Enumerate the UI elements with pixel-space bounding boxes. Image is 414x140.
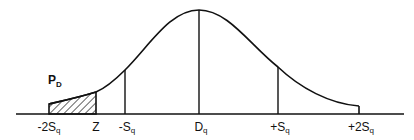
axis-label-z: Z xyxy=(92,120,99,134)
axis-label-plus-sq: +Sq xyxy=(270,120,289,135)
axis-label-dq: Dq xyxy=(194,120,207,135)
axis-label-plus-2sq: +2Sq xyxy=(348,120,374,135)
normal-distribution-diagram: PD -2Sq Z -Sq Dq +Sq +2Sq xyxy=(0,0,414,140)
pd-label: PD xyxy=(48,73,62,89)
axis-label-minus-sq: -Sq xyxy=(119,120,135,135)
axis-label-minus-2sq: -2Sq xyxy=(37,120,60,135)
bell-curve xyxy=(49,10,359,106)
